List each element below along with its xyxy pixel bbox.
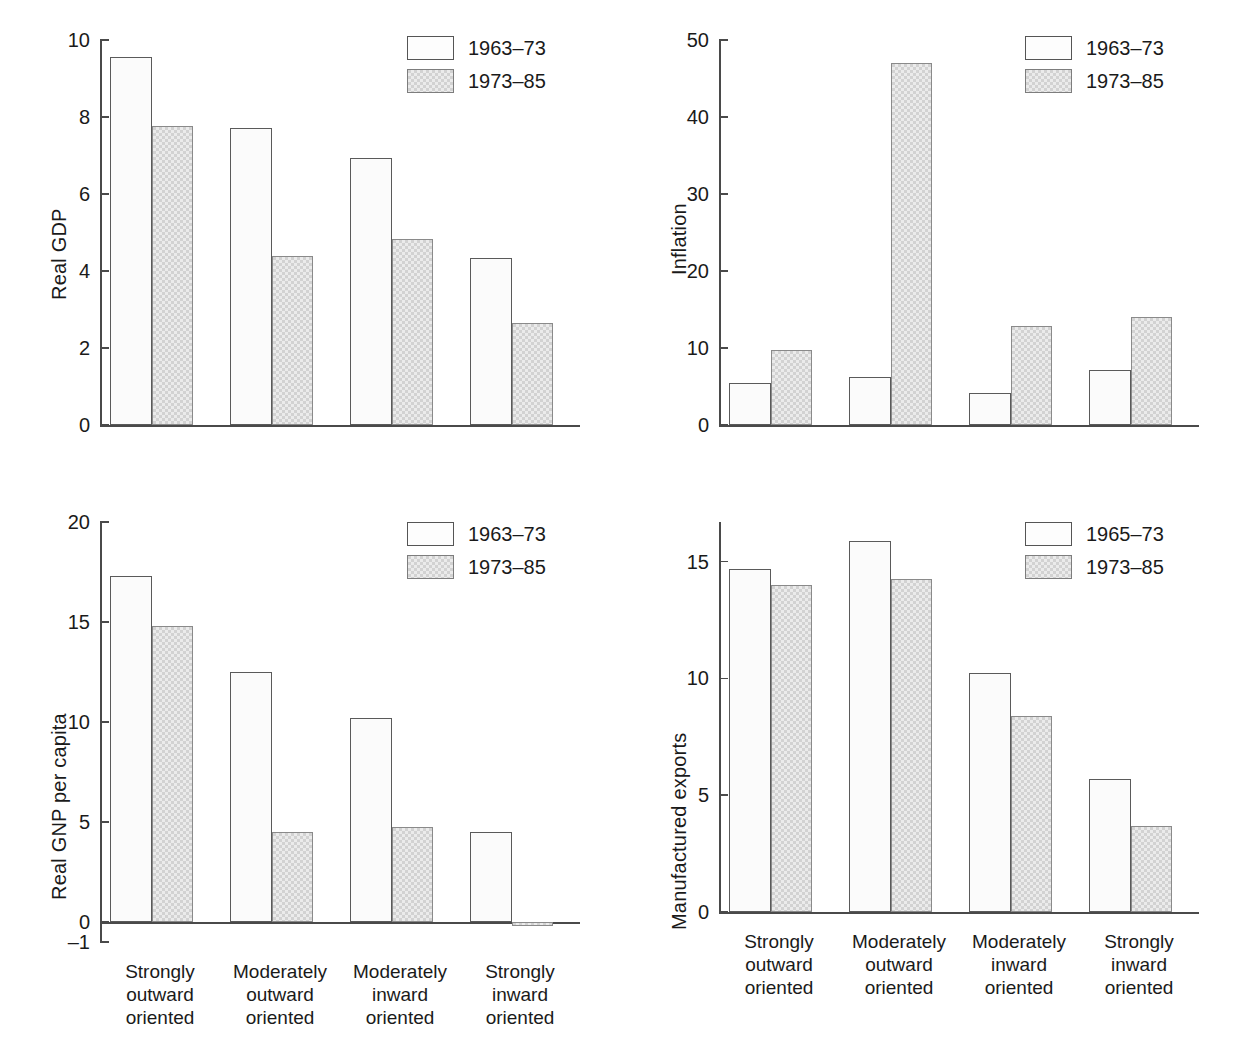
bar-manufactured-exports-g0-s0 bbox=[729, 569, 770, 912]
y-axis-tick-label: 8 bbox=[38, 106, 90, 129]
bar-real-gdp-g0-s1 bbox=[152, 126, 193, 425]
y-axis-tick-label: 10 bbox=[38, 29, 90, 52]
legend-label: 1965–73 bbox=[1086, 523, 1164, 546]
legend-swatch-light-icon bbox=[1025, 36, 1072, 60]
y-axis-tick bbox=[719, 347, 728, 349]
bar-manufactured-exports-g2-s1 bbox=[1011, 716, 1052, 912]
legend-item: 1973–85 bbox=[1025, 69, 1164, 93]
legend-swatch-shaded-icon bbox=[1025, 69, 1072, 93]
y-axis-tick-label: 10 bbox=[38, 711, 90, 734]
y-axis-tick-label: 4 bbox=[38, 260, 90, 283]
category-label: Strongly inward oriented bbox=[1079, 930, 1199, 999]
y-axis-tick-label: 10 bbox=[657, 667, 709, 690]
bar-real-gdp-g0-s0 bbox=[110, 57, 151, 425]
bar-real-gnp-per-capita-g2-s1 bbox=[392, 827, 433, 922]
y-axis-line bbox=[719, 40, 721, 425]
bar-inflation-g2-s0 bbox=[969, 393, 1010, 425]
legend-item: 1973–85 bbox=[407, 555, 546, 579]
legend-swatch-light-icon bbox=[1025, 522, 1072, 546]
y-axis-tick bbox=[100, 116, 109, 118]
y-axis-tick-label: 10 bbox=[657, 337, 709, 360]
legend-label: 1973–85 bbox=[1086, 70, 1164, 93]
y-axis-tick bbox=[100, 521, 109, 523]
x-axis-line bbox=[100, 922, 580, 924]
legend-item: 1963–73 bbox=[1025, 36, 1164, 60]
y-axis-tick-label: 0 bbox=[38, 414, 90, 437]
y-axis-tick-label: 5 bbox=[657, 784, 709, 807]
legend-label: 1973–85 bbox=[468, 70, 546, 93]
y-axis-tick-label: 20 bbox=[657, 260, 709, 283]
bar-real-gnp-per-capita-g1-s1 bbox=[272, 832, 313, 922]
bar-real-gdp-g1-s0 bbox=[230, 128, 271, 425]
category-label: Moderately inward oriented bbox=[340, 960, 460, 1029]
y-axis-tick bbox=[719, 116, 728, 118]
y-axis-tick-label: 50 bbox=[657, 29, 709, 52]
y-axis-tick-label: 0 bbox=[657, 414, 709, 437]
y-axis-tick bbox=[719, 270, 728, 272]
y-axis-tick bbox=[100, 821, 109, 823]
y-axis-tick bbox=[100, 621, 109, 623]
bar-real-gdp-g3-s1 bbox=[512, 323, 553, 425]
legend-swatch-shaded-icon bbox=[407, 69, 454, 93]
y-axis-tick-label: 0 bbox=[657, 901, 709, 924]
bar-manufactured-exports-g1-s0 bbox=[849, 541, 890, 912]
legend-real-gdp: 1963–73 1973–85 bbox=[407, 36, 546, 102]
y-axis-tick-label: 0 bbox=[38, 911, 90, 934]
bar-inflation-g3-s0 bbox=[1089, 370, 1130, 425]
legend-label: 1973–85 bbox=[1086, 556, 1164, 579]
y-axis-tick bbox=[719, 561, 728, 563]
legend-inflation: 1963–73 1973–85 bbox=[1025, 36, 1164, 102]
category-label: Moderately outward oriented bbox=[839, 930, 959, 999]
legend-real-gnp: 1963–73 1973–85 bbox=[407, 522, 546, 588]
category-label: Strongly inward oriented bbox=[460, 960, 580, 1029]
y-axis-tick-label: –1 bbox=[38, 931, 90, 954]
y-axis-tick bbox=[100, 347, 109, 349]
y-axis-label-real-gnp: Real GNP per capita bbox=[48, 713, 71, 900]
legend-label: 1973–85 bbox=[468, 556, 546, 579]
y-axis-line bbox=[719, 522, 721, 912]
bar-real-gnp-per-capita-g1-s0 bbox=[230, 672, 271, 922]
bar-inflation-g3-s1 bbox=[1131, 317, 1172, 425]
legend-swatch-shaded-icon bbox=[407, 555, 454, 579]
legend-item: 1973–85 bbox=[1025, 555, 1164, 579]
y-axis-tick bbox=[719, 39, 728, 41]
figure-bar-chart-grid: Real GDP 0246810 1963–73 1973–85 Inflati… bbox=[0, 0, 1242, 1049]
legend-swatch-light-icon bbox=[407, 522, 454, 546]
y-axis-tick bbox=[100, 721, 109, 723]
x-axis-line bbox=[719, 912, 1199, 914]
legend-item: 1973–85 bbox=[407, 69, 546, 93]
y-axis-tick-label: 30 bbox=[657, 183, 709, 206]
bar-real-gdp-g2-s1 bbox=[392, 239, 433, 425]
panel-real-gdp: Real GDP 0246810 1963–73 1973–85 bbox=[0, 0, 621, 500]
bar-real-gnp-per-capita-g2-s0 bbox=[350, 718, 391, 922]
legend-item: 1963–73 bbox=[407, 522, 546, 546]
bar-manufactured-exports-g0-s1 bbox=[771, 585, 812, 912]
bar-real-gnp-per-capita-g3-s0 bbox=[470, 832, 511, 922]
bar-real-gdp-g2-s0 bbox=[350, 158, 391, 425]
y-axis-tick bbox=[100, 270, 109, 272]
panel-manufactured-exports: Manufactured exports 051015 1965–73 1973… bbox=[621, 500, 1242, 1049]
y-axis-tick bbox=[719, 193, 728, 195]
y-axis-tick-label: 2 bbox=[38, 337, 90, 360]
legend-label: 1963–73 bbox=[1086, 37, 1164, 60]
legend-item: 1963–73 bbox=[407, 36, 546, 60]
category-label: Strongly outward oriented bbox=[100, 960, 220, 1029]
legend-manufactured-exports: 1965–73 1973–85 bbox=[1025, 522, 1164, 588]
legend-swatch-shaded-icon bbox=[1025, 555, 1072, 579]
y-axis-tick bbox=[719, 911, 728, 913]
y-axis-line bbox=[100, 40, 102, 425]
bar-inflation-g1-s1 bbox=[891, 63, 932, 425]
y-axis-tick bbox=[719, 794, 728, 796]
bar-manufactured-exports-g2-s0 bbox=[969, 673, 1010, 912]
y-axis-line bbox=[100, 522, 102, 942]
bar-real-gdp-g1-s1 bbox=[272, 256, 313, 425]
category-label: Strongly outward oriented bbox=[719, 930, 839, 999]
y-axis-tick-label: 15 bbox=[38, 611, 90, 634]
y-axis-tick-label: 5 bbox=[38, 811, 90, 834]
x-axis-category-labels-right: Strongly outward orientedModerately outw… bbox=[719, 930, 1199, 1010]
legend-label: 1963–73 bbox=[468, 37, 546, 60]
y-axis-tick-label: 40 bbox=[657, 106, 709, 129]
bar-inflation-g1-s0 bbox=[849, 377, 890, 425]
panel-inflation: Inflation 01020304050 1963–73 1973–85 bbox=[621, 0, 1242, 500]
y-axis-tick-label: 15 bbox=[657, 550, 709, 573]
